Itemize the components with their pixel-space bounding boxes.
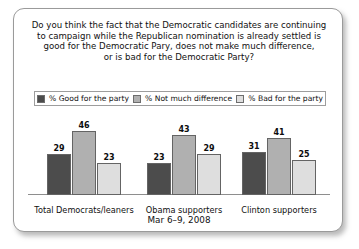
bar-group-bars: 29 46 23	[38, 113, 130, 195]
bar-group-bars: 23 43 29	[138, 113, 230, 195]
bar-value: 23	[153, 153, 164, 162]
bar-obama-bad: 29	[197, 113, 221, 195]
bar-value: 25	[298, 150, 309, 159]
bar-value: 31	[248, 142, 259, 151]
bar-rect-good	[242, 152, 266, 195]
legend-swatch-good	[37, 95, 45, 103]
legend-item-same: % Not much difference	[133, 94, 232, 103]
bar-rect-bad	[97, 163, 121, 195]
question-line-2: to campaign while the Republican nominat…	[24, 31, 334, 42]
question-line-4: or is bad for the Democratic Party?	[24, 52, 334, 63]
legend-swatch-bad	[236, 95, 244, 103]
bar-clinton-bad: 25	[292, 113, 316, 195]
bar-clinton-same: 41	[267, 113, 291, 195]
bar-total-bad: 23	[97, 113, 121, 195]
bar-rect-good	[47, 154, 71, 195]
bar-rect-same	[72, 131, 96, 195]
legend-label-good: % Good for the party	[49, 94, 129, 103]
bar-rect-same	[267, 138, 291, 195]
bar-rect-bad	[292, 160, 316, 195]
poll-chart-card: Do you think the fact that the Democrati…	[13, 8, 343, 232]
group-label-clinton-supporters: Clinton supporters	[219, 205, 339, 215]
bar-clinton-good: 31	[242, 113, 266, 195]
legend-swatch-same	[133, 95, 141, 103]
bar-group-obama-supporters: 23 43 29 Obama supporters	[138, 113, 230, 221]
legend-label-same: % Not much difference	[145, 94, 232, 103]
bar-total-good: 29	[47, 113, 71, 195]
legend-label-bad: % Bad for the party	[248, 94, 323, 103]
bar-value: 29	[203, 144, 214, 153]
question-line-1: Do you think the fact that the Democrati…	[24, 20, 334, 31]
legend-item-bad: % Bad for the party	[236, 94, 323, 103]
bar-group-total-democrats: 29 46 23 Total Democrats/leaners	[38, 113, 130, 221]
survey-date-footer: Mar 6–9, 2008	[14, 215, 344, 225]
legend-item-good: % Good for the party	[37, 94, 129, 103]
bar-obama-good: 23	[147, 113, 171, 195]
bar-value: 23	[103, 153, 114, 162]
bar-value: 46	[78, 121, 89, 130]
bar-obama-same: 43	[172, 113, 196, 195]
bar-rect-bad	[197, 154, 221, 195]
chart-plot-area: 29 46 23 Total Democrats/leaners 23	[28, 113, 330, 221]
bar-value: 43	[178, 125, 189, 134]
bar-rect-good	[147, 163, 171, 195]
question-line-3: good for the Democratic Pary, does not m…	[24, 41, 334, 52]
chart-legend: % Good for the party % Not much differen…	[34, 91, 326, 106]
bar-value: 41	[273, 128, 284, 137]
bar-value: 29	[53, 144, 64, 153]
bar-group-bars: 31 41 25	[233, 113, 325, 195]
bar-group-clinton-supporters: 31 41 25 Clinton supporters	[233, 113, 325, 221]
bar-rect-same	[172, 135, 196, 195]
bar-total-same: 46	[72, 113, 96, 195]
question-title: Do you think the fact that the Democrati…	[24, 20, 334, 62]
